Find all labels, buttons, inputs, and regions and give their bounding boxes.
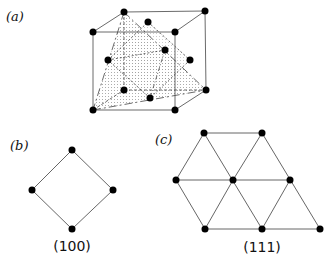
panel-b-label: (b) (10, 138, 28, 153)
crystal-diagram (0, 0, 328, 259)
panel-a-label: (a) (6, 9, 24, 24)
plane-111-lattice (173, 130, 324, 233)
fcc-unit-cell (90, 8, 210, 114)
panel-b-caption: (100) (53, 238, 91, 254)
panel-c-label: (c) (155, 132, 172, 147)
panel-c-caption: (111) (243, 239, 281, 255)
plane-100-lattice (29, 147, 117, 233)
